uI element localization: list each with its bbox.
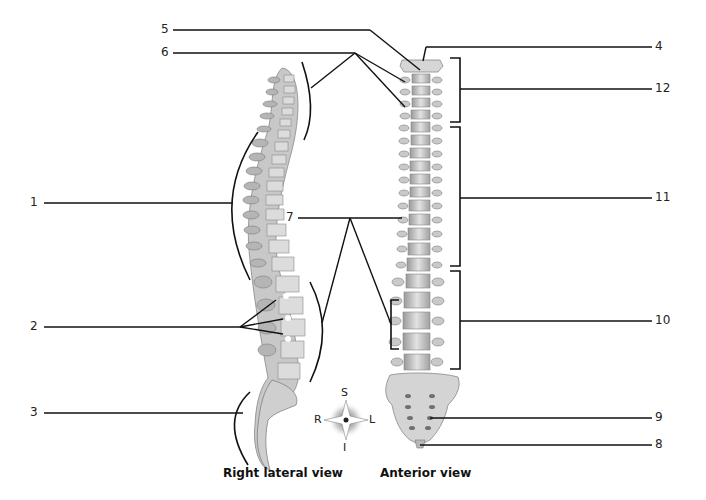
label-6: 6	[161, 46, 169, 58]
compass-right: R	[314, 413, 322, 426]
label-12: 12	[655, 82, 670, 94]
label-4: 4	[655, 40, 663, 52]
label-9: 9	[655, 411, 663, 423]
label-5: 5	[161, 23, 169, 35]
label-8: 8	[655, 438, 663, 450]
lateral-spine	[243, 68, 305, 470]
anterior-spine	[386, 60, 459, 448]
label-3: 3	[30, 406, 38, 418]
spine-diagram	[0, 0, 706, 500]
label-1: 1	[30, 196, 38, 208]
caption-right-lateral-view: Right lateral view	[223, 466, 343, 480]
compass-left: L	[369, 413, 375, 426]
compass-rose	[324, 400, 368, 440]
compass-superior: S	[341, 386, 348, 399]
leader-lines	[44, 30, 652, 445]
compass-inferior: I	[343, 441, 346, 454]
label-11: 11	[655, 191, 670, 203]
label-10: 10	[655, 314, 670, 326]
label-2: 2	[30, 320, 38, 332]
caption-anterior-view: Anterior view	[380, 466, 471, 480]
label-7: 7	[286, 211, 294, 223]
